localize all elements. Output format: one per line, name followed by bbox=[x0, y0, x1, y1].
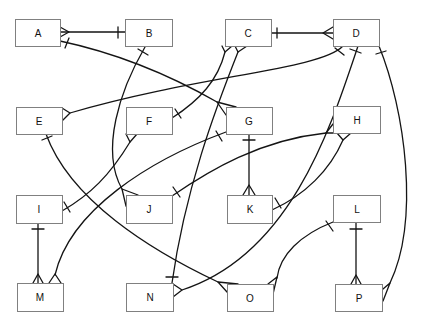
entity-d: D bbox=[334, 20, 380, 47]
entity-label: H bbox=[353, 115, 360, 126]
relationship-l-o bbox=[268, 221, 333, 294]
connector-line bbox=[379, 46, 407, 283]
bar-one-icon bbox=[175, 109, 181, 118]
entity-label: A bbox=[35, 28, 42, 39]
relationship-d-p bbox=[376, 46, 407, 301]
entity-l: L bbox=[334, 196, 381, 223]
entity-n: N bbox=[127, 284, 174, 312]
connector-line bbox=[70, 46, 343, 113]
relationship-a-g bbox=[60, 38, 236, 115]
entity-m: M bbox=[18, 284, 64, 312]
entity-label: N bbox=[146, 292, 153, 303]
entity-label: C bbox=[244, 28, 251, 39]
crows-foot-many-icon bbox=[126, 134, 137, 142]
entity-label: M bbox=[36, 292, 44, 303]
entity-label: K bbox=[247, 204, 254, 215]
entity-b: B bbox=[126, 20, 173, 47]
connector-line bbox=[277, 222, 333, 278]
connector-line bbox=[60, 41, 217, 102]
connector-line bbox=[182, 46, 358, 290]
entity-g: G bbox=[227, 108, 273, 135]
entity-label: B bbox=[146, 28, 153, 39]
entity-e: E bbox=[17, 108, 63, 135]
entity-h: H bbox=[334, 107, 381, 134]
entity-label: F bbox=[146, 116, 152, 127]
entity-label: G bbox=[245, 116, 253, 127]
entity-label: O bbox=[246, 293, 254, 304]
crows-foot-many-icon bbox=[173, 284, 182, 297]
entity-label: E bbox=[36, 116, 43, 127]
relationship-f-i bbox=[62, 134, 137, 212]
relationship-i-m bbox=[32, 223, 44, 283]
er-diagram-canvas: A B C D E F G bbox=[0, 0, 421, 326]
relationship-g-k bbox=[243, 134, 255, 195]
er-diagram: A B C D E F G bbox=[0, 0, 421, 326]
crows-foot-many-icon bbox=[337, 133, 351, 140]
entity-k: K bbox=[228, 196, 273, 224]
crows-foot-many-icon bbox=[62, 108, 70, 121]
entity-label: P bbox=[356, 293, 363, 304]
relationship-c-d bbox=[271, 27, 333, 39]
connector-line bbox=[62, 142, 130, 211]
entity-i: I bbox=[17, 196, 63, 224]
entity-c: C bbox=[226, 20, 272, 47]
entity-label: D bbox=[352, 28, 359, 39]
connector-line bbox=[272, 140, 343, 210]
crows-foot-many-icon bbox=[383, 283, 390, 301]
relationship-d-e bbox=[62, 46, 344, 121]
relationship-l-p bbox=[350, 222, 362, 284]
relationship-a-b bbox=[60, 27, 125, 38]
entity-o: O bbox=[228, 285, 274, 312]
entity-j: J bbox=[127, 196, 173, 224]
relationships bbox=[32, 27, 407, 301]
entity-a: A bbox=[16, 20, 61, 47]
entity-p: P bbox=[336, 285, 383, 312]
entity-f: F bbox=[127, 108, 173, 135]
relationship-d-n bbox=[173, 46, 361, 297]
entity-label: I bbox=[38, 204, 41, 215]
entity-label: J bbox=[147, 204, 152, 215]
entity-label: L bbox=[354, 204, 360, 215]
